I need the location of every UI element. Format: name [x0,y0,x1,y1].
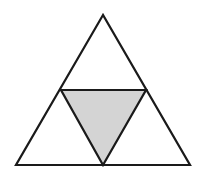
shaded-center-triangle [61,90,146,165]
triangle-diagram [0,0,205,177]
